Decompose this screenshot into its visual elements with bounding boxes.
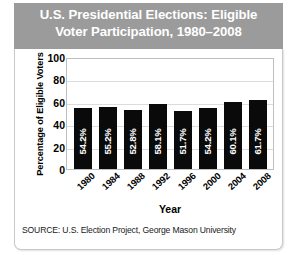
bar-value-label: 51.7% (177, 128, 188, 154)
y-axis-tick-label: 80 (38, 74, 65, 86)
x-axis-tick: 2008 (238, 172, 278, 190)
bar: 61.7% (249, 100, 267, 169)
bar: 54.2% (74, 108, 92, 169)
bar-value-label: 52.8% (127, 128, 138, 154)
bar: 60.1% (224, 102, 242, 169)
chart-figure: U.S. Presidential Elections: Eligible Vo… (14, 3, 283, 250)
bar: 51.7% (174, 111, 192, 169)
page-title: U.S. Presidential Elections: Eligible Vo… (14, 7, 283, 40)
x-axis-tick-label: 2008 (251, 170, 273, 192)
bar-value-label: 54.2% (202, 128, 213, 154)
bar-series: 54.2%55.2%52.8%58.1%51.7%54.2%60.1%61.7% (67, 59, 273, 169)
bar: 55.2% (99, 107, 117, 169)
plot-frame: 54.2%55.2%52.8%58.1%51.7%54.2%60.1%61.7% (66, 58, 274, 170)
bar-value-label: 60.1% (227, 128, 238, 154)
chart-plot-region: Percentage of Eligible Voters 1008060402… (15, 49, 282, 221)
bar-value-label: 61.7% (252, 128, 263, 154)
bar-value-label: 54.2% (77, 128, 88, 154)
y-axis-tick-label: 40 (38, 119, 65, 131)
bar: 52.8% (124, 110, 142, 169)
y-axis-tick-label: 100 (38, 52, 65, 64)
y-axis-tick-label: 20 (38, 142, 65, 154)
x-axis-ticks: 19801984198819921996200020042008 (66, 172, 274, 204)
source-note: SOURCE: U.S. Election Project, George Ma… (22, 225, 236, 235)
bar-value-label: 58.1% (152, 128, 163, 154)
y-axis-tick-label: 60 (38, 97, 65, 109)
chart-card: Percentage of Eligible Voters 1008060402… (14, 49, 283, 250)
chart-title-band: U.S. Presidential Elections: Eligible Vo… (14, 3, 283, 49)
bar: 58.1% (149, 104, 167, 169)
bar-value-label: 55.2% (102, 128, 113, 154)
bar: 54.2% (199, 108, 217, 169)
x-axis-title: Year (66, 203, 274, 215)
y-axis-ticks: 100806040200 (38, 58, 65, 170)
